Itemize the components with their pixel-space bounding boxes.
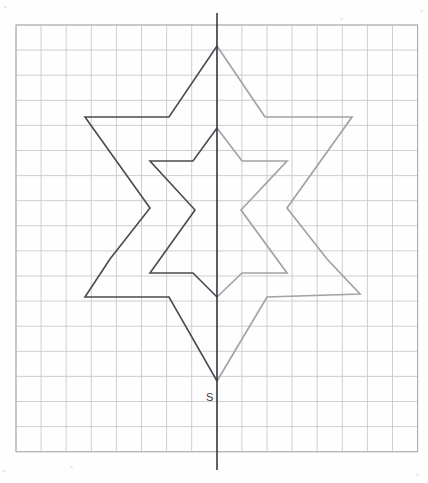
paper-speck-2 [420,10,423,12]
star-shapes [85,46,360,381]
inner-star-left-half-original [150,128,217,297]
point-label-s: S [206,391,213,403]
outer-star-right-half-reflection [217,46,360,381]
paper-speck-4 [70,466,73,468]
point-labels: S [206,391,213,403]
inner-star-right-half-reflection [217,128,287,297]
worksheet-canvas: S [0,0,428,483]
paper-speck-1 [2,470,5,472]
star-reflection-figure: S [0,0,428,483]
paper-speck-5 [340,18,343,20]
outer-star-left-half-original [85,46,217,381]
paper-speck-0 [4,6,7,8]
paper-speck-3 [416,474,419,476]
